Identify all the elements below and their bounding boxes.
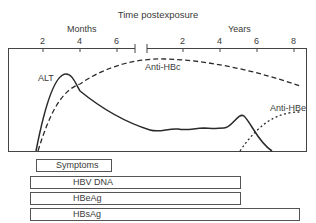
plot-graphics [0,0,316,223]
alt-curve [36,74,272,151]
bar-hbv-dna-label: HBV DNA [73,177,113,188]
bar-hbsag-label: HBsAg [73,209,101,220]
anti-hbc-label: Anti-HBc [145,62,181,72]
alt-label: ALT [38,73,54,83]
bar-symptoms-label: Symptoms [56,160,99,171]
anti-hbe-curve [240,112,300,151]
bar-hbeag-label: HBeAg [73,193,102,204]
anti-hbc-curve [38,59,300,151]
anti-hbe-label: Anti-HBe [270,103,306,113]
bar-hbsag: HBsAg [30,208,300,221]
bar-hbv-dna: HBV DNA [30,176,241,189]
bar-hbeag: HBeAg [30,192,241,205]
plot-frame [8,44,307,152]
bar-symptoms: Symptoms [36,159,112,172]
